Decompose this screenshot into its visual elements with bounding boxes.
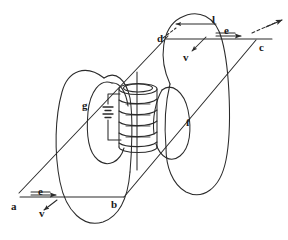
coil-top-rim-inner xyxy=(124,84,153,92)
l-vector-dashed xyxy=(163,28,176,38)
label-a: a xyxy=(11,201,17,212)
v-arrow-bottom xyxy=(44,200,57,210)
solenoid-coil xyxy=(119,72,157,170)
label-b: b xyxy=(111,199,117,210)
figure-canvas: a b c d e e v v l f g xyxy=(0,0,288,240)
coil-turn xyxy=(119,121,157,126)
label-d: d xyxy=(157,33,163,44)
coil-turn xyxy=(119,99,157,104)
label-v-bottom: v xyxy=(39,208,45,219)
e-arrow-bottom xyxy=(31,192,56,195)
field-line-right-inner xyxy=(153,87,189,159)
field-line-right-outer xyxy=(163,14,229,195)
label-l: l xyxy=(212,14,215,25)
label-g: g xyxy=(82,100,88,111)
coil-top-rim xyxy=(119,84,157,95)
coil-bottom-rim xyxy=(119,147,157,153)
field-line-left-outer xyxy=(56,70,132,223)
label-e-top: e xyxy=(224,25,229,36)
circuit-wire-top xyxy=(108,94,120,104)
coil-turn xyxy=(119,132,157,137)
diagonal-extension-arrow xyxy=(266,20,282,27)
coil-turn xyxy=(119,142,157,147)
physics-diagram-svg xyxy=(0,0,288,240)
label-v-top: v xyxy=(183,52,189,63)
coil-turn xyxy=(119,110,157,115)
loop-edge-bc xyxy=(124,40,256,197)
label-e-bottom: e xyxy=(38,186,43,197)
label-f: f xyxy=(186,117,190,128)
label-c: c xyxy=(259,42,264,53)
